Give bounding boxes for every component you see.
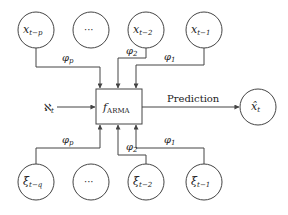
ma-node-3: ξt−1 bbox=[186, 164, 222, 200]
ar-node-0: xt−p bbox=[18, 12, 54, 48]
ar-coef-2: φ2 bbox=[126, 45, 138, 58]
ma-node-0: ξt−q bbox=[18, 164, 54, 200]
svg-text:···: ··· bbox=[84, 24, 94, 35]
arma-function-node: fARMA bbox=[96, 89, 142, 124]
ar-node-ellipsis: ··· bbox=[73, 12, 109, 48]
ar-coef-p: φp bbox=[62, 52, 74, 65]
output-node: x̂t bbox=[240, 89, 276, 125]
ar-node-2: xt−2 bbox=[128, 12, 164, 48]
ma-coef-1: φ1 bbox=[164, 134, 175, 147]
ma-node-2: ξt−2 bbox=[128, 164, 164, 200]
ar-node-3: xt−1 bbox=[186, 12, 222, 48]
exogenous-input-label: ℵt bbox=[44, 102, 54, 115]
ma-node-ellipsis: ··· bbox=[73, 164, 109, 200]
arma-diagram: fARMA ℵt Prediction x̂t xt−p ··· xt−2 xt… bbox=[0, 0, 288, 215]
ar-coef-1: φ1 bbox=[164, 51, 175, 64]
prediction-label: Prediction bbox=[167, 93, 220, 104]
svg-text:···: ··· bbox=[84, 176, 94, 187]
ma-coef-p: φp bbox=[62, 134, 74, 147]
